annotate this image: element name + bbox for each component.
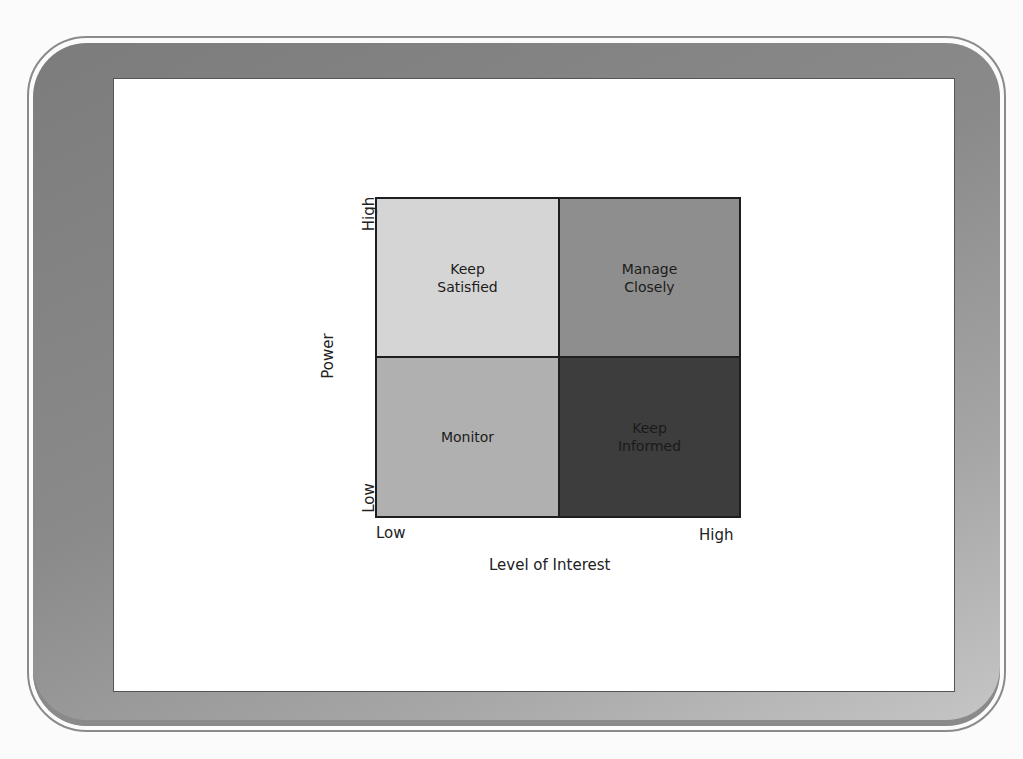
y-axis-label: Power [319,326,337,386]
quadrant-keep-satisfied: KeepSatisfied [377,199,558,356]
quadrant-manage-closely: ManageClosely [560,199,739,356]
power-interest-grid: KeepSatisfied ManageClosely Monitor Keep… [375,197,741,518]
quadrant-monitor: Monitor [377,358,558,516]
quadrant-label: Manage [622,260,678,278]
quadrant-label: Closely [622,278,678,296]
quadrant-label: Informed [618,437,681,455]
y-tick-high: High [360,194,378,234]
x-tick-low: Low [376,524,406,542]
quadrant-label: Satisfied [437,278,497,296]
quadrant-label: Keep [618,419,681,437]
x-tick-high: High [699,526,733,544]
quadrant-label: Keep [437,260,497,278]
quadrant-label: Monitor [441,428,494,446]
x-axis-label: Level of Interest [489,556,610,574]
y-tick-low: Low [360,480,378,516]
quadrant-keep-informed: KeepInformed [560,358,739,516]
